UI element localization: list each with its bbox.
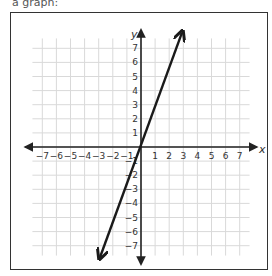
x-tick-label: 6 <box>223 151 229 161</box>
x-tick-label: −7 <box>36 151 49 161</box>
x-tick-label: 1 <box>152 151 158 161</box>
x-tick-label: 3 <box>180 151 186 161</box>
y-tick-label: −5 <box>125 213 138 223</box>
x-tick-label: −3 <box>92 151 105 161</box>
x-axis-label: x <box>258 143 266 156</box>
x-tick-label: 5 <box>209 151 215 161</box>
y-tick-label: 3 <box>132 100 138 110</box>
y-tick-label: 5 <box>132 72 138 82</box>
y-tick-label: 1 <box>132 128 138 138</box>
y-tick-label: 6 <box>132 57 138 67</box>
x-tick-label: 7 <box>237 151 243 161</box>
x-tick-label: −2 <box>106 151 119 161</box>
coordinate-plane: −7−6−5−4−3−2−112345677654321−1−2−3−4−5−6… <box>0 0 272 276</box>
y-tick-label: −6 <box>125 227 139 237</box>
x-tick-label: −5 <box>64 151 77 161</box>
x-tick-label: 4 <box>195 151 201 161</box>
y-tick-label: −7 <box>125 241 138 251</box>
y-tick-label: −4 <box>125 198 139 208</box>
y-tick-label: 7 <box>132 43 138 53</box>
x-tick-label: −6 <box>50 151 64 161</box>
y-tick-label: 4 <box>132 86 138 96</box>
y-tick-label: 2 <box>132 114 138 124</box>
y-axis-label: y <box>130 28 138 41</box>
x-tick-label: −4 <box>78 151 92 161</box>
x-tick-label: 2 <box>166 151 172 161</box>
